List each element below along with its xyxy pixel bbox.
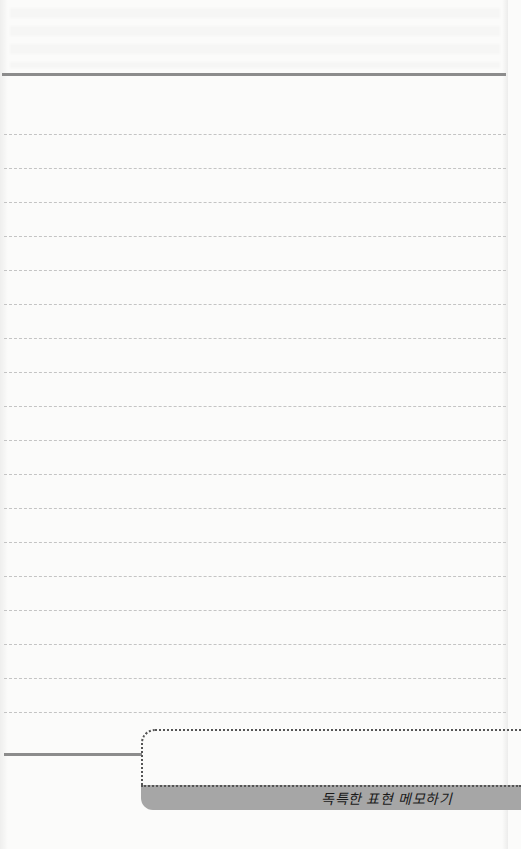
ruled-line[interactable] [4,542,506,543]
ruled-line[interactable] [4,474,506,475]
ruled-line[interactable] [4,202,506,203]
ruled-line[interactable] [4,304,506,305]
top-rule-line [2,73,506,76]
ruled-line[interactable] [4,270,506,271]
bleed-through-area [10,8,500,68]
memo-label-band: 독특한 표현 메모하기 [141,785,521,810]
ruled-line[interactable] [4,236,506,237]
bottom-rule-line [4,753,142,756]
ruled-line[interactable] [4,508,506,509]
ruled-line[interactable] [4,644,506,645]
ruled-line[interactable] [4,678,506,679]
ruled-line[interactable] [4,134,506,135]
ruled-line[interactable] [4,406,506,407]
memo-writing-area[interactable] [141,729,521,785]
ruled-line[interactable] [4,576,506,577]
ruled-line[interactable] [4,372,506,373]
ruled-line[interactable] [4,440,506,441]
memo-label: 독특한 표현 메모하기 [321,788,452,808]
ruled-line[interactable] [4,610,506,611]
ruled-line[interactable] [4,338,506,339]
ruled-line[interactable] [4,712,506,713]
ruled-line[interactable] [4,168,506,169]
